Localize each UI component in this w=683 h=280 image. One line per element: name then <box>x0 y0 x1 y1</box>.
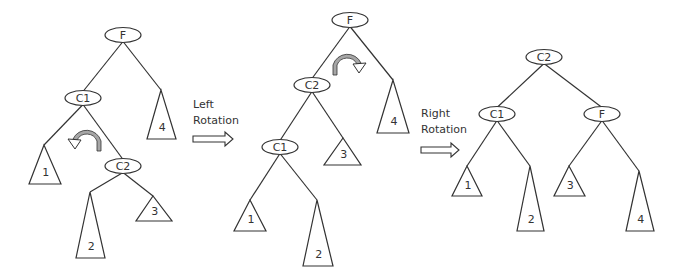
tree-edge <box>497 64 544 108</box>
subtree-label: 3 <box>567 179 574 192</box>
node-label: F <box>120 29 126 42</box>
right-rotation-label-line1: Right <box>421 107 450 121</box>
tree-edge <box>83 42 123 92</box>
node-c2: C2 <box>105 159 141 174</box>
tree-rotation-diagram: 412343121234 FC1C2FC2C1C2C1F <box>0 0 683 280</box>
subtree-label: 3 <box>340 148 347 161</box>
tree-edge <box>123 173 153 197</box>
tree-edge <box>312 92 343 139</box>
clockwise-arrow-icon <box>333 54 366 75</box>
node-f: F <box>584 107 620 122</box>
right-rotation-label-line2: Rotation <box>421 123 467 137</box>
subtree-4: 4 <box>377 80 409 133</box>
node-c1: C1 <box>262 140 298 155</box>
subtree-1: 1 <box>452 166 482 196</box>
node-label: C1 <box>76 92 91 105</box>
subtree-1: 1 <box>29 145 61 184</box>
node-c2: C2 <box>526 50 562 65</box>
subtree-2: 2 <box>303 200 333 266</box>
counter-clockwise-arrow-icon <box>68 130 101 151</box>
node-c2: C2 <box>294 78 330 93</box>
node-label: C1 <box>490 108 505 121</box>
subtree-label: 2 <box>315 248 322 261</box>
tree-edge <box>250 154 280 201</box>
subtree-1: 1 <box>234 200 266 231</box>
subtree-label: 1 <box>248 213 255 226</box>
node-f: F <box>332 13 368 28</box>
subtree-label: 1 <box>42 166 49 179</box>
node-label: F <box>347 14 353 27</box>
node-label: C2 <box>305 79 320 92</box>
node-label: C2 <box>537 51 552 64</box>
subtree-label: 2 <box>88 240 95 253</box>
right-rotation-arrow-icon <box>421 143 459 157</box>
tree-edge <box>280 154 317 201</box>
left-rotation-label-line1: Left <box>193 98 214 112</box>
node-c1: C1 <box>479 107 515 122</box>
subtree-label: 1 <box>465 179 472 192</box>
transition-arrows <box>193 132 459 157</box>
tree-edge <box>544 64 602 108</box>
subtree-label: 3 <box>151 205 158 218</box>
tree-edge <box>312 27 350 79</box>
node-label: C1 <box>273 141 288 154</box>
subtree-label: 4 <box>391 115 398 128</box>
node-f: F <box>105 28 141 43</box>
tree-edge <box>280 92 312 141</box>
subtree-3: 3 <box>136 196 172 221</box>
subtree-label: 2 <box>528 213 535 226</box>
tree-edge <box>569 121 602 167</box>
tree-edge <box>467 121 497 167</box>
subtree-2: 2 <box>517 166 544 231</box>
subtree-label: 4 <box>159 121 166 134</box>
left-rotation-arrow-icon <box>193 132 233 146</box>
tree-edge <box>123 42 161 91</box>
subtree-3: 3 <box>324 138 361 165</box>
subtree-3: 3 <box>554 166 585 196</box>
node-c1: C1 <box>65 91 101 106</box>
subtree-2: 2 <box>76 192 105 258</box>
tree-edge <box>350 27 393 81</box>
node-label: C2 <box>116 160 131 173</box>
tree-edge <box>497 121 530 167</box>
tree-edge <box>90 173 123 193</box>
subtree-4: 4 <box>147 90 176 139</box>
subtree-4: 4 <box>626 171 654 231</box>
tree-edge <box>602 121 639 172</box>
subtree-label: 4 <box>637 213 644 226</box>
node-label: F <box>599 108 605 121</box>
left-rotation-label-line2: Rotation <box>193 114 239 128</box>
